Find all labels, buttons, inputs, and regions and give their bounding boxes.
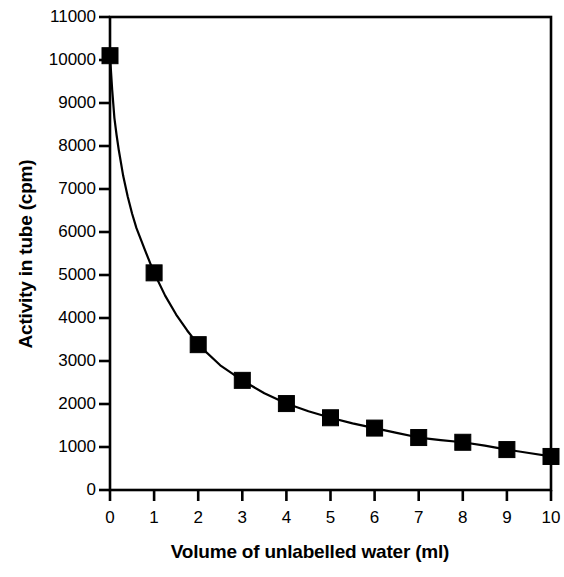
data-point-marker <box>190 337 206 353</box>
y-axis-tick-label: 5000 <box>26 266 96 283</box>
data-point-marker <box>323 410 339 426</box>
fit-curve-path <box>110 56 551 457</box>
x-axis-title: Volume of unlabelled water (ml) <box>70 541 550 563</box>
data-point-marker <box>543 448 559 464</box>
y-axis-tick-label: 7000 <box>26 180 96 197</box>
data-point-marker <box>234 372 250 388</box>
data-point-marker <box>102 48 118 64</box>
y-axis-tick-label: 3000 <box>26 352 96 369</box>
y-axis-tick-label: 8000 <box>26 137 96 154</box>
x-axis-tick-label: 10 <box>531 509 564 526</box>
data-point-marker <box>499 442 515 458</box>
data-point-marker <box>146 265 162 281</box>
y-axis-tick-label: 10000 <box>26 51 96 68</box>
x-axis-tick-label: 6 <box>355 509 395 526</box>
x-axis-tick-label: 7 <box>399 509 439 526</box>
y-axis-tick-labels: 0100020003000400050006000700080009000100… <box>22 0 96 510</box>
x-axis-tick-label: 8 <box>443 509 483 526</box>
y-axis-tick-label: 1000 <box>26 438 96 455</box>
data-point-marker <box>278 396 294 412</box>
x-axis-tick-label: 4 <box>266 509 306 526</box>
x-axis-ticks <box>110 490 551 501</box>
y-axis-tick-label: 0 <box>26 481 96 498</box>
y-axis-tick-label: 4000 <box>26 309 96 326</box>
x-axis-tick-label: 5 <box>311 509 351 526</box>
x-axis-tick-label: 1 <box>134 509 174 526</box>
x-axis-tick-labels: 012345678910 <box>0 0 564 40</box>
y-axis-tick-label: 9000 <box>26 94 96 111</box>
y-axis-tick-label: 2000 <box>26 395 96 412</box>
data-markers <box>102 48 559 465</box>
data-point-marker <box>411 430 427 446</box>
y-axis-ticks <box>99 17 110 490</box>
data-fit-curve <box>110 56 551 457</box>
x-axis-tick-label: 9 <box>487 509 527 526</box>
y-axis-tick-label: 6000 <box>26 223 96 240</box>
data-point-marker <box>367 420 383 436</box>
x-axis-tick-label: 0 <box>90 509 130 526</box>
x-axis-tick-label: 2 <box>178 509 218 526</box>
x-axis-tick-label: 3 <box>222 509 262 526</box>
data-point-marker <box>455 434 471 450</box>
chart-figure: Activity in tube (cpm) 01000200030004000… <box>0 0 564 577</box>
